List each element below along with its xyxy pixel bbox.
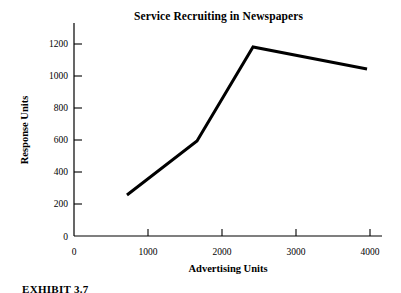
y-axis-ticks	[74, 44, 82, 204]
y-axis-title: Response Units	[19, 96, 30, 165]
data-line-response	[127, 47, 367, 195]
x-tick-label-0: 0	[72, 247, 77, 257]
y-tick-label-1000: 1000	[49, 71, 68, 81]
x-axis-ticks	[148, 229, 370, 236]
x-tick-label-2000: 2000	[213, 247, 232, 257]
x-axis-tick-labels: 0 1000 2000 3000 4000	[72, 247, 380, 257]
y-tick-label-0: 0	[63, 232, 68, 242]
y-tick-label-1200: 1200	[49, 39, 68, 49]
y-tick-label-600: 600	[54, 135, 69, 145]
y-tick-label-400: 400	[54, 167, 69, 177]
y-tick-label-800: 800	[54, 103, 69, 113]
x-tick-label-3000: 3000	[287, 247, 306, 257]
x-tick-label-4000: 4000	[361, 247, 380, 257]
x-axis-title: Advertising Units	[188, 263, 267, 274]
y-tick-label-200: 200	[54, 199, 69, 209]
y-axis-tick-labels: 1200 1000 800 600 400 200 0	[49, 39, 68, 242]
x-tick-label-1000: 1000	[139, 247, 158, 257]
figure-caption: EXHIBIT 3.7	[22, 283, 89, 293]
